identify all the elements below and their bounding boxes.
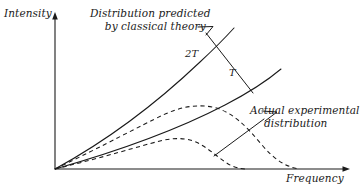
classical-line-2T (55, 28, 234, 169)
experimental-curve-T (55, 139, 248, 169)
classical-theory-annotation-line2: by classical theory (90, 20, 211, 33)
experimental-annotation-line1: Actual experimental (250, 104, 360, 116)
classical-annotation-leader-line (206, 33, 253, 93)
annotation-leaders (198, 27, 277, 157)
y-axis-label: Intensity (4, 7, 52, 20)
curve-label-T: T (229, 67, 236, 79)
classical-theory-annotation: Distribution predicted by classical theo… (90, 7, 211, 33)
x-axis-label: Frequency (286, 172, 344, 185)
y-axis-arrowhead-icon (52, 12, 58, 20)
curve-label-2T: 2T (185, 48, 198, 60)
blackbody-radiation-figure: Intensity Frequency Distribution predict… (0, 0, 360, 192)
x-axis-arrowhead-icon (343, 166, 351, 172)
experimental-annotation-line2: distribution (250, 117, 360, 130)
experimental-annotation: Actual experimental distribution (250, 104, 360, 130)
classical-line-T (55, 69, 281, 169)
classical-theory-annotation-line1: Distribution predicted (90, 7, 211, 19)
classical-theory-curves (55, 28, 281, 169)
